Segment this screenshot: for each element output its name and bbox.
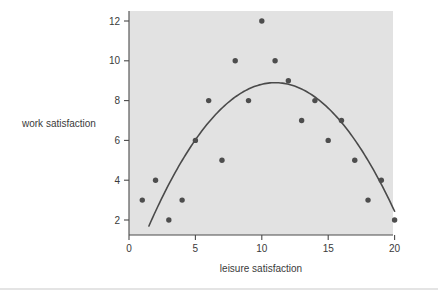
data-point [299,118,304,123]
y-tick-label-2: 2 [114,215,120,226]
scatter-plot-figure: 12 10 8 6 4 2 work satisfaction 0 5 10 1… [0,0,438,292]
data-point [312,98,317,103]
data-point [365,197,370,202]
y-tick-label-8: 8 [114,95,120,106]
data-point [326,138,331,143]
data-point [379,178,384,183]
x-tick-label-5: 5 [193,243,199,254]
data-point [286,78,291,83]
data-point [392,217,397,222]
data-point [352,158,357,163]
data-point [246,98,251,103]
y-tick-label-4: 4 [114,175,120,186]
data-point [259,18,264,23]
y-tick-label-10: 10 [109,55,121,66]
y-tick-label-6: 6 [114,135,120,146]
data-point [193,138,198,143]
data-point [140,197,145,202]
x-tick-label-15: 15 [323,243,335,254]
data-point [233,58,238,63]
y-tick-label-12: 12 [109,16,121,27]
data-point [166,217,171,222]
data-point [153,178,158,183]
y-axis-title: work satisfaction [21,118,96,129]
x-tick-label-0: 0 [126,243,132,254]
data-point [179,197,184,202]
data-point [339,118,344,123]
x-axis-title: leisure satisfaction [220,263,302,274]
data-point [219,158,224,163]
data-point [272,58,277,63]
x-tick-label-20: 20 [389,243,401,254]
data-point [206,98,211,103]
plot-area-background [129,11,393,235]
x-tick-label-10: 10 [256,243,268,254]
